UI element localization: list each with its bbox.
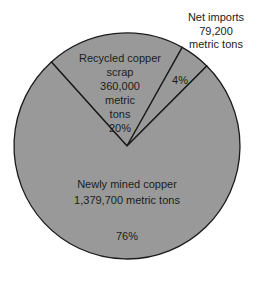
pie-chart: Newly mined copper 1,379,700 metric tons… [0, 0, 260, 285]
net-imports-label-line-1: Net imports [188, 11, 245, 23]
net-imports-label-line-3: metric tons [189, 38, 243, 50]
recycled-percent-label: 20% [109, 122, 131, 134]
recycled-label-line-4: metric [105, 94, 135, 106]
recycled-label-line-3: 360,000 [100, 80, 140, 92]
newly-mined-label-line-1: Newly mined copper [77, 178, 177, 190]
recycled-label-line-1: Recycled copper [79, 52, 161, 64]
newly-mined-label-line-2: 1,379,700 metric tons [74, 194, 180, 206]
recycled-label-line-5: tons [110, 108, 131, 120]
net-imports-label-line-2: 79,200 [199, 25, 233, 37]
newly-mined-percent-label: 76% [116, 230, 138, 242]
net-imports-percent-label: 4% [172, 74, 188, 86]
recycled-label-line-2: scrap [107, 66, 134, 78]
